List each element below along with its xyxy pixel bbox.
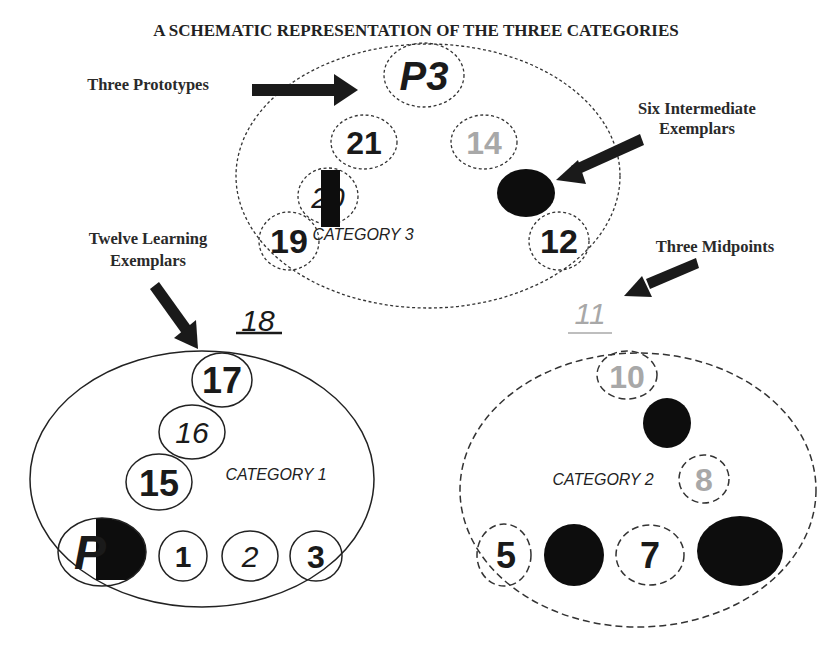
exemplar-3-label: 3 xyxy=(307,539,325,575)
category-1: 18 17 16 15 P 1 2 3 CATEGORY 1 xyxy=(30,304,374,607)
intermediate-exemplar-cat2-right xyxy=(697,516,783,586)
exemplar-16-label: 16 xyxy=(175,416,209,449)
exemplar-17-label: 17 xyxy=(202,360,242,401)
exemplar-15-label: 15 xyxy=(139,463,179,504)
annotation-three-midpoints: Three Midpoints xyxy=(656,237,775,256)
category-2-label: CATEGORY 2 xyxy=(552,471,653,488)
arrow-down-right-icon xyxy=(150,282,198,349)
prototype-p-label: P xyxy=(74,526,107,579)
annotation-three-prototypes: Three Prototypes xyxy=(87,75,209,94)
exemplar-19-label: 19 xyxy=(270,222,308,260)
exemplar-5-label: 5 xyxy=(496,535,516,576)
intermediate-exemplar-cat2-left xyxy=(544,524,604,586)
exemplar-14-label: 14 xyxy=(466,125,502,161)
exemplar-21-label: 21 xyxy=(346,125,382,161)
intermediate-exemplar-cat2-top xyxy=(643,398,691,448)
exemplar-8-label: 8 xyxy=(695,462,713,498)
annotation-six-intermediate-line1: Six Intermediate xyxy=(638,99,756,118)
arrow-down-left-icon xyxy=(556,134,644,184)
arrow-right-icon xyxy=(252,74,358,106)
prototype-p3-label: P3 xyxy=(400,54,449,98)
exemplar-1-label: 1 xyxy=(175,540,192,573)
exemplar-20-bar xyxy=(321,170,340,227)
category-1-label: CATEGORY 1 xyxy=(225,466,326,483)
annotation-six-intermediate-line2: Exemplars xyxy=(659,119,736,138)
exemplar-10-label: 10 xyxy=(609,359,645,395)
intermediate-exemplar-cat3 xyxy=(497,169,555,217)
category-schematic-diagram: A SCHEMATIC REPRESENTATION OF THE THREE … xyxy=(0,0,832,651)
exemplar-12-label: 12 xyxy=(540,222,578,260)
exemplar-7-label: 7 xyxy=(640,535,660,576)
midpoint-11-label: 11 xyxy=(574,297,605,330)
annotation-twelve-learning-line1: Twelve Learning xyxy=(89,229,208,248)
exemplar-2-label: 2 xyxy=(241,540,259,573)
arrow-down-left-icon-2 xyxy=(624,258,699,297)
category-3-label: CATEGORY 3 xyxy=(312,226,413,243)
annotation-twelve-learning-line2: Exemplars xyxy=(110,251,187,270)
diagram-title: A SCHEMATIC REPRESENTATION OF THE THREE … xyxy=(153,21,679,40)
category-2: 11 10 8 CATEGORY 2 5 7 xyxy=(460,297,816,627)
